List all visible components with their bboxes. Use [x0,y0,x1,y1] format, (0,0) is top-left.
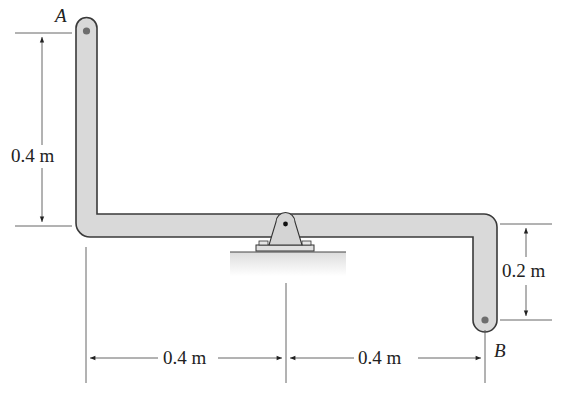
dim-bottom-right-label: 0.4 m [358,347,402,368]
pin-a-icon [83,27,90,34]
ground [230,252,346,276]
bent-bar-diagram: A B 0.4 m 0.2 m 0.4 m 0.4 m [0,0,561,404]
dim-bottom-left-label: 0.4 m [163,347,207,368]
dim-right-vertical-label: 0.2 m [502,260,546,281]
pin-b-icon [481,316,488,323]
support-pin-icon [283,222,288,227]
point-b-label: B [494,340,506,361]
dimension-left-vertical [15,33,72,226]
point-a-label: A [53,5,67,26]
dim-left-vertical-label: 0.4 m [11,145,55,166]
bent-bar [76,18,497,333]
